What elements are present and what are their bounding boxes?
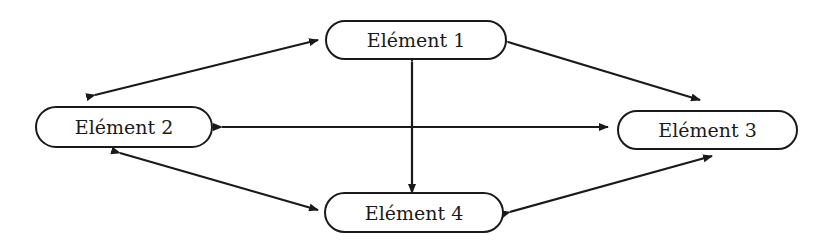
node-label: Elément 3 <box>658 119 756 141</box>
node-element-3: Elément 3 <box>617 110 798 150</box>
node-element-1: Elément 1 <box>325 20 507 60</box>
node-label: Elément 1 <box>367 29 465 51</box>
diagram-canvas: Elément 1 Elément 2 Elément 3 Elément 4 <box>0 0 836 250</box>
node-element-4: Elément 4 <box>324 192 504 233</box>
node-element-2: Elément 2 <box>35 106 213 148</box>
edge-3-4 <box>510 156 712 212</box>
node-label: Elément 4 <box>365 202 463 224</box>
edge-1-3 <box>508 42 700 100</box>
edge-2-4 <box>120 153 318 210</box>
node-label: Elément 2 <box>75 116 173 138</box>
edge-1-2 <box>95 40 318 95</box>
